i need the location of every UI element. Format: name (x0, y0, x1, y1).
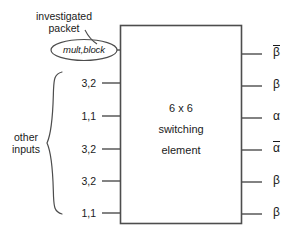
investigated-packet-annotation: investigated packet (22, 10, 106, 34)
output-overbar-4: α (273, 142, 280, 154)
input-label-3: 1,1 (62, 110, 96, 122)
output-label-2: β (273, 78, 299, 90)
other-inputs-brace (47, 72, 62, 214)
other-inputs-annotation-line2: inputs (4, 143, 48, 155)
investigated-annotation-line2: packet (22, 22, 106, 34)
other-inputs-annotation: other inputs (4, 131, 48, 155)
switching-element-label: 6 x 6 switching element (119, 98, 243, 161)
switching-element-line1: 6 x 6 (119, 98, 243, 119)
other-inputs-annotation-line1: other (4, 131, 48, 143)
input-label-4: 3,2 (62, 143, 96, 155)
input-label-6: 1,1 (62, 207, 96, 219)
investigated-packet-oval-label: mult,block (51, 44, 117, 56)
output-symbol-1: β (273, 45, 280, 59)
output-label-3: α (273, 110, 299, 122)
output-label-4: α (273, 142, 299, 154)
output-overbar-1: β (273, 46, 280, 58)
output-symbol-5: β (273, 173, 280, 187)
input-label-2: 3,2 (62, 77, 96, 89)
investigated-annotation-line1: investigated (22, 10, 106, 22)
switching-element-line3: element (119, 140, 243, 161)
output-symbol-4: α (273, 141, 280, 155)
output-symbol-2: β (273, 77, 280, 91)
output-label-1: β (273, 46, 299, 58)
figure-canvas: investigated packet mult,block other inp… (0, 0, 304, 242)
output-label-6: β (273, 206, 299, 218)
output-symbol-6: β (273, 205, 280, 219)
output-label-5: β (273, 174, 299, 186)
switching-element-line2: switching (119, 119, 243, 140)
output-symbol-3: α (273, 109, 280, 123)
input-label-5: 3,2 (62, 175, 96, 187)
